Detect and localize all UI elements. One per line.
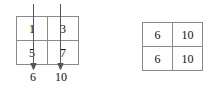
table-row: 6 10 [143,23,203,47]
source-cell-r1c0: 5 [17,41,48,65]
diagram-canvas: 1 3 5 7 6 10 6 10 6 10 [0,0,212,93]
source-cell-r0c1: 3 [48,17,79,41]
column-sum-label-0: 6 [23,71,43,83]
table-row: 1 3 [17,17,79,41]
source-matrix: 1 3 5 7 [16,16,79,65]
source-cell-r0c0: 1 [17,17,48,41]
result-cell-r1c0: 6 [143,47,173,71]
source-cell-r1c1: 7 [48,41,79,65]
result-matrix: 6 10 6 10 [142,22,203,71]
table-row: 5 7 [17,41,79,65]
column-sum-label-1: 10 [48,71,74,83]
table-row: 6 10 [143,47,203,71]
result-cell-r1c1: 10 [173,47,203,71]
result-cell-r0c1: 10 [173,23,203,47]
result-cell-r0c0: 6 [143,23,173,47]
